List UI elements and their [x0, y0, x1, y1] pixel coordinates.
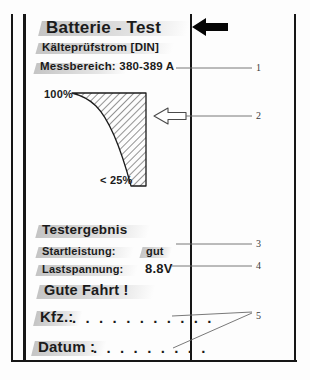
- lastspannung-label: Lastspannung:: [42, 263, 123, 275]
- gauge-top-label: 100%: [44, 88, 73, 100]
- left-arrow-solid-icon: [192, 18, 228, 36]
- startleistung-label: Startleistung:: [42, 245, 116, 257]
- datum-dotted-line: . . . . . . . . .: [93, 339, 208, 356]
- closing-message: Gute Fahrt !: [44, 282, 129, 298]
- leader-lines: [172, 68, 252, 348]
- callout-number-2: 2: [256, 110, 261, 121]
- measurement-range: Messbereich: 380-389 A: [40, 60, 174, 72]
- callout-number-5: 5: [256, 310, 261, 321]
- callout-number-4: 4: [256, 260, 261, 271]
- left-arrow-outline-icon: [154, 108, 186, 124]
- kfz-label: Kfz.:: [40, 308, 74, 325]
- startleistung-value: gut: [146, 245, 164, 257]
- callout-number-1: 1: [256, 62, 261, 73]
- frame-bottom-border: [11, 360, 297, 362]
- receipt-title: Batterie - Test: [46, 18, 161, 38]
- receipt-subtitle: Kälteprüfstrom [DIN]: [42, 41, 159, 53]
- kfz-dotted-line: . . . . . . . . . . .: [72, 309, 214, 326]
- frame-inner-left-border: [23, 14, 26, 362]
- frame-outer-left-border: [11, 14, 13, 362]
- datum-label: Datum :: [38, 338, 95, 355]
- discharge-curve-wedge: [72, 93, 146, 186]
- lastspannung-value: 8.8V: [145, 261, 173, 276]
- result-heading: Testergebnis: [42, 222, 127, 237]
- frame-right-border: [294, 14, 296, 362]
- gauge-bottom-label: < 25%: [100, 174, 133, 186]
- battery-test-figure: Batterie - Test Kälteprüfstrom [DIN] Mes…: [0, 0, 310, 380]
- callout-number-3: 3: [256, 238, 261, 249]
